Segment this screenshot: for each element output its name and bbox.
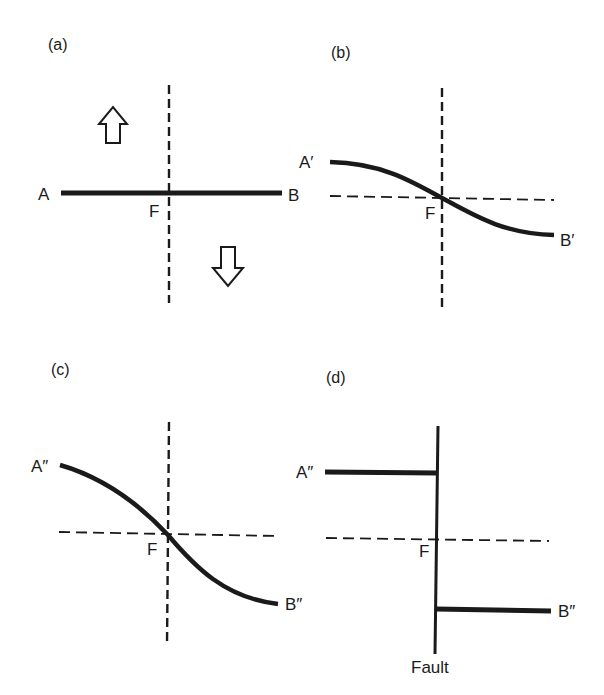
point-a-double-prime-label: A″ [31, 457, 48, 476]
point-a-double-prime-label: A″ [296, 463, 313, 482]
panel-d-label: (d) [326, 369, 346, 386]
fault-label: Fault [411, 658, 449, 677]
point-f-label: F [147, 540, 157, 559]
down-arrow-icon [213, 247, 243, 286]
panel-a: (a) A B F [38, 36, 299, 303]
panel-b-label: (b) [331, 44, 351, 61]
point-f-label: F [425, 204, 435, 223]
point-f-label: F [419, 542, 429, 561]
point-a-prime-label: A′ [299, 153, 314, 172]
point-b-double-prime-label: B″ [285, 595, 302, 614]
downthrown-marker-segment [436, 609, 551, 611]
panel-d: (d) A″ B″ F Fault [296, 369, 575, 677]
point-b-double-prime-label: B″ [558, 602, 575, 621]
point-b-prime-label: B′ [560, 231, 575, 250]
up-arrow-icon [99, 107, 127, 143]
point-a-label: A [38, 185, 50, 204]
upthrown-marker-segment [325, 472, 437, 473]
point-f-label: F [149, 202, 159, 221]
panel-a-label: (a) [48, 36, 68, 53]
panel-b: (b) A′ B′ F [299, 44, 575, 310]
panel-c: (c) A″ B″ F [31, 361, 302, 646]
point-b-label: B [288, 186, 299, 205]
fault-diagram: (a) A B F (b) A′ B′ F (c) A″ B″ F (d) [0, 0, 604, 695]
panel-c-label: (c) [51, 361, 70, 378]
